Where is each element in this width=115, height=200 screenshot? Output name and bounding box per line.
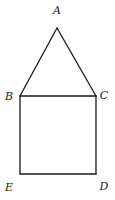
vertex-label-c: C	[100, 89, 109, 102]
vertex-label-d: D	[99, 180, 109, 193]
geometry-diagram: A B C D E	[0, 0, 115, 200]
edge-a-c	[57, 28, 96, 96]
vertex-label-b: B	[4, 90, 13, 103]
edges-group	[20, 28, 96, 174]
edge-a-b	[20, 28, 57, 96]
vertex-label-e: E	[4, 181, 13, 194]
vertex-label-a: A	[52, 4, 61, 17]
